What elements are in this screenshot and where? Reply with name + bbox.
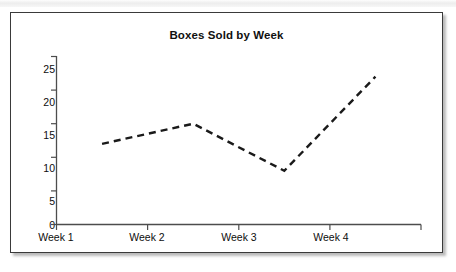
chart-plot-svg bbox=[11, 13, 444, 254]
page-scan-band bbox=[0, 0, 456, 7]
plot-area: 25 20 15 10 5 0 Week 1 Week 2 Week 3 Wee… bbox=[11, 13, 444, 254]
chart-figure-frame: Boxes Sold by Week 25 20 15 10 5 0 Week … bbox=[10, 12, 443, 253]
x-axis-ticks bbox=[57, 225, 422, 231]
y-axis-ticks bbox=[51, 57, 57, 225]
data-series-boxes-sold bbox=[102, 77, 375, 171]
